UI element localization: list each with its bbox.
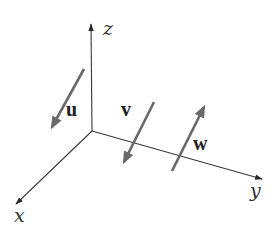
axes: z y x (14, 17, 262, 226)
y-axis (92, 131, 262, 179)
y-axis-label: y (249, 179, 261, 201)
vector-diagram: z y x u v w (0, 0, 275, 244)
vector-v-label: v (121, 98, 131, 120)
vectors: u v w (52, 69, 208, 171)
vector-w-label: w (193, 132, 208, 154)
z-axis (91, 24, 92, 131)
z-axis-label: z (102, 17, 114, 39)
x-axis (16, 131, 92, 204)
x-axis-label: x (14, 204, 25, 226)
vector-u-label: u (66, 98, 77, 120)
